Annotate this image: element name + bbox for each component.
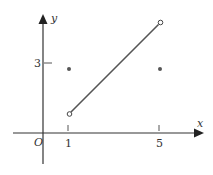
y-axis-arrow-icon xyxy=(39,14,48,24)
graph-canvas: y x O 1 5 3 xyxy=(0,0,213,175)
open-endpoint-right xyxy=(158,20,163,25)
y-axis-label: y xyxy=(50,12,58,25)
open-endpoint-left xyxy=(67,112,72,117)
x-tick-label-5: 5 xyxy=(156,137,163,150)
x-tick-label-1: 1 xyxy=(65,137,72,150)
line-segment xyxy=(71,25,159,113)
origin-label: O xyxy=(34,136,43,149)
filled-point-right xyxy=(158,67,162,71)
filled-point-left xyxy=(67,67,71,71)
function-graph: y x O 1 5 3 xyxy=(0,0,213,175)
x-axis-label: x xyxy=(197,117,204,130)
y-tick-label-3: 3 xyxy=(34,57,41,70)
